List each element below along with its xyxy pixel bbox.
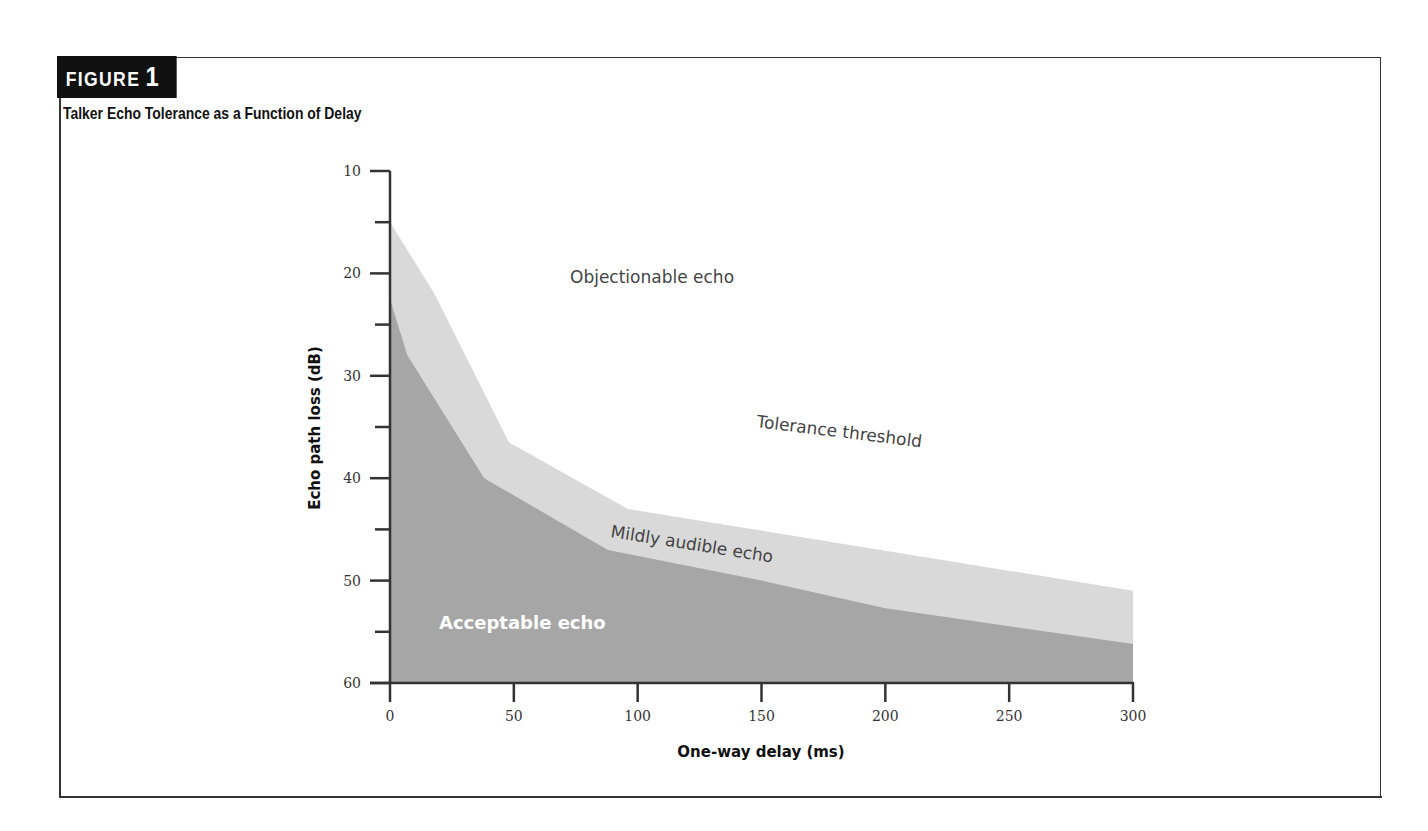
x-tick-label: 50: [505, 708, 523, 724]
y-tick-label: 20: [343, 265, 361, 281]
y-tick-label: 50: [343, 573, 361, 589]
x-tick-label: 0: [386, 708, 395, 724]
y-axis-ticks: 102030405060: [343, 163, 390, 691]
echo-tolerance-chart: 102030405060 050100150200250300 Echo pat…: [0, 0, 1428, 831]
objectionable-echo-label: Objectionable echo: [570, 267, 734, 287]
acceptable-echo-label: Acceptable echo: [439, 612, 606, 633]
y-tick-label: 10: [343, 163, 361, 179]
x-tick-label: 250: [996, 708, 1023, 724]
y-tick-label: 40: [343, 470, 361, 486]
y-axis-title: Echo path loss (dB): [306, 346, 324, 510]
tolerance-threshold-label: Tolerance threshold: [755, 411, 924, 451]
x-tick-label: 300: [1120, 708, 1147, 724]
y-tick-label: 30: [343, 368, 361, 384]
x-tick-label: 150: [748, 708, 775, 724]
x-axis-ticks: 050100150200250300: [386, 683, 1147, 724]
x-axis-title: One-way delay (ms): [677, 743, 844, 761]
x-tick-label: 200: [872, 708, 899, 724]
x-tick-label: 100: [624, 708, 651, 724]
y-tick-label: 60: [343, 675, 361, 691]
